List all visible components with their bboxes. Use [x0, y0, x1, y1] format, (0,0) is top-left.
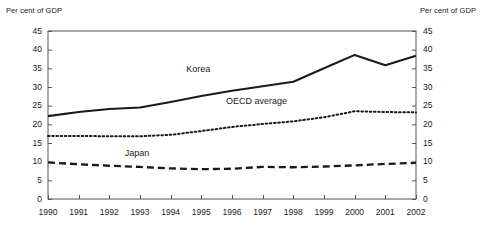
y-axis-tick-label-right: 5	[423, 176, 445, 185]
series-label-oecd-average: OECD average	[226, 96, 287, 106]
x-axis-tick-label: 1999	[307, 208, 341, 217]
y-axis-tick-label-left: 35	[20, 64, 42, 73]
x-axis-tick-label: 1991	[62, 208, 96, 217]
x-axis-tick-label: 1994	[154, 208, 188, 217]
y-axis-tick-label-right: 15	[423, 139, 445, 148]
series-line-japan	[48, 162, 416, 169]
x-axis-tick-label: 1998	[276, 208, 310, 217]
y-axis-tick-label-right: 25	[423, 101, 445, 110]
y-axis-tick-label-left: 30	[20, 83, 42, 92]
y-axis-tick-label-right: 10	[423, 157, 445, 166]
x-axis-tick-label: 1996	[215, 208, 249, 217]
y-axis-tick-label-left: 0	[20, 195, 42, 204]
x-axis-tick-label: 1990	[31, 208, 65, 217]
y-axis-unit-label-right: Per cent of GDP	[420, 6, 476, 15]
x-axis-tick-label: 2001	[368, 208, 402, 217]
series-line-korea	[48, 55, 416, 116]
y-axis-tick-label-right: 40	[423, 45, 445, 54]
y-axis-tick-label-right: 35	[423, 64, 445, 73]
chart-container: Per cent of GDP Per cent of GDP 05101520…	[0, 0, 482, 245]
y-axis-tick-label-left: 20	[20, 120, 42, 129]
y-axis-tick-label-right: 20	[423, 120, 445, 129]
y-axis-tick-label-right: 30	[423, 83, 445, 92]
y-axis-unit-label-left: Per cent of GDP	[6, 6, 62, 15]
y-axis-tick-label-left: 40	[20, 45, 42, 54]
y-axis-tick-label-left: 10	[20, 157, 42, 166]
y-axis-tick-label-right: 0	[423, 195, 445, 204]
x-axis-tick-label: 2000	[338, 208, 372, 217]
x-axis-tick-label: 1992	[92, 208, 126, 217]
y-axis-tick-label-left: 25	[20, 101, 42, 110]
x-axis-tick-label: 2002	[399, 208, 433, 217]
y-axis-tick-label-left: 15	[20, 139, 42, 148]
x-axis-tick-label: 1993	[123, 208, 157, 217]
y-axis-tick-label-right: 45	[423, 27, 445, 36]
y-axis-tick-label-left: 45	[20, 27, 42, 36]
series-label-japan: Japan	[125, 148, 150, 158]
y-axis-tick-label-left: 5	[20, 176, 42, 185]
x-axis-tick-label: 1997	[246, 208, 280, 217]
x-axis-tick-label: 1995	[184, 208, 218, 217]
series-label-korea: Korea	[186, 64, 210, 74]
series-line-oecd-average	[48, 111, 416, 136]
